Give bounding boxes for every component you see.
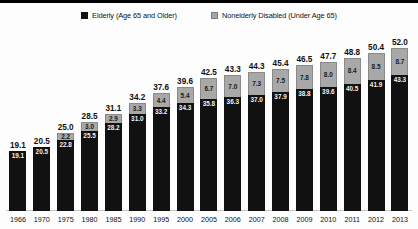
bar-segment-value: 3.3 [133, 106, 142, 112]
bar-segment-nonelderly-disabled[interactable]: 7.5 [272, 69, 289, 93]
bar-segment-nonelderly-disabled[interactable]: 2.9 [105, 114, 122, 123]
bar-segment-elderly[interactable]: 34.3 [177, 103, 194, 211]
bar-segment-nonelderly-disabled[interactable]: 3.3 [129, 103, 146, 113]
legend-item-elderly: Elderly (Age 65 and Older) [81, 11, 177, 20]
bar-segment-nonelderly-disabled[interactable]: 4.4 [153, 93, 170, 107]
bar-segment-value: 8.0 [324, 72, 333, 78]
bar-segment-elderly[interactable]: 36.3 [224, 97, 241, 211]
x-tick-label: 2005 [197, 213, 221, 224]
bar-segment-value: 7.0 [228, 84, 237, 90]
bar-stack[interactable]: 2.222.8 [57, 133, 74, 211]
bar-stack[interactable]: 7.036.3 [224, 75, 241, 211]
x-tick-label: 2010 [316, 213, 340, 224]
bar-segment-nonelderly-disabled[interactable]: 7.3 [248, 72, 265, 95]
bar-stack[interactable]: 8.039.6 [320, 62, 337, 211]
bar-stack[interactable]: 7.838.8 [296, 65, 313, 211]
bar-segment-elderly[interactable]: 37.9 [272, 92, 289, 211]
bar-segment-nonelderly-disabled[interactable]: 7.8 [296, 65, 313, 89]
bar-segment-value: 37.9 [274, 94, 286, 100]
bar-segment-value: 31.0 [131, 116, 143, 122]
bar-segment-value: 4.4 [157, 98, 166, 104]
bar-total-label: 19.1 [10, 141, 26, 150]
bar-group: 25.02.222.8 [54, 24, 78, 211]
bar-segment-elderly[interactable]: 20.5 [33, 147, 50, 211]
bar-segment-elderly[interactable]: 35.8 [200, 99, 217, 211]
bar-segment-value: 36.3 [227, 99, 239, 105]
bar-stack[interactable]: 19.1 [9, 151, 26, 211]
bar-segment-value: 7.3 [252, 81, 261, 87]
x-tick-label: 1995 [149, 213, 173, 224]
bar-group: 19.119.1 [6, 24, 30, 211]
plot-area: 19.119.120.520.525.02.222.828.53.025.531… [6, 24, 412, 229]
bar-segment-nonelderly-disabled[interactable]: 5.4 [177, 87, 194, 104]
bar-segment-value: 8.4 [348, 68, 357, 74]
legend-item-nonelderly-disabled: Nonelderly Disabled (Under Age 65) [211, 11, 337, 20]
x-tick-label: 2006 [221, 213, 245, 224]
bar-segment-nonelderly-disabled[interactable]: 8.5 [368, 53, 385, 80]
bar-total-label: 44.3 [249, 62, 265, 71]
bar-segment-elderly[interactable]: 41.9 [368, 80, 385, 211]
bar-group: 37.64.433.2 [149, 24, 173, 211]
bar-segment-value: 2.9 [109, 116, 118, 122]
bar-segment-value: 5.4 [181, 93, 190, 99]
bar-segment-elderly[interactable]: 37.0 [248, 95, 265, 211]
bar-stack[interactable]: 8.743.3 [391, 48, 408, 211]
bar-segment-value: 28.2 [107, 125, 119, 131]
bar-segment-value: 40.5 [346, 86, 358, 92]
x-tick-label: 1980 [78, 213, 102, 224]
bar-stack[interactable]: 4.433.2 [153, 93, 170, 211]
bar-segment-elderly[interactable]: 43.3 [391, 75, 408, 211]
bar-stack[interactable]: 7.537.9 [272, 69, 289, 211]
bar-group: 28.53.025.5 [78, 24, 102, 211]
bar-total-label: 50.4 [368, 43, 384, 52]
bar-segment-elderly[interactable]: 25.5 [81, 131, 98, 211]
bar-segment-nonelderly-disabled[interactable]: 2.2 [57, 133, 74, 140]
bar-segment-value: 8.7 [395, 59, 404, 65]
bar-segment-nonelderly-disabled[interactable]: 8.7 [391, 48, 408, 75]
bar-segment-elderly[interactable]: 31.0 [129, 114, 146, 211]
x-tick-label: 2009 [293, 213, 317, 224]
bar-segment-elderly[interactable]: 28.2 [105, 123, 122, 211]
bar-group: 39.65.434.3 [173, 24, 197, 211]
bar-total-label: 47.7 [320, 52, 336, 61]
x-tick-label: 1966 [6, 213, 30, 224]
bar-total-label: 39.6 [177, 77, 193, 86]
bar-segment-nonelderly-disabled[interactable]: 6.7 [200, 78, 217, 99]
bar-stack[interactable]: 3.025.5 [81, 122, 98, 211]
bar-group: 34.23.331.0 [125, 24, 149, 211]
bar-segment-nonelderly-disabled[interactable]: 8.0 [320, 62, 337, 87]
bar-segment-elderly[interactable]: 38.8 [296, 89, 313, 211]
bar-group: 42.56.735.8 [197, 24, 221, 211]
bar-group: 47.78.039.6 [316, 24, 340, 211]
bar-stack[interactable]: 3.331.0 [129, 103, 146, 211]
bar-segment-elderly[interactable]: 39.6 [320, 87, 337, 211]
bar-stack[interactable]: 2.928.2 [105, 114, 122, 211]
bar-segment-value: 22.8 [59, 142, 71, 148]
bar-segment-nonelderly-disabled[interactable]: 7.0 [224, 75, 241, 97]
legend-label: Elderly (Age 65 and Older) [92, 11, 177, 20]
x-tick-label: 2012 [364, 213, 388, 224]
bar-segment-nonelderly-disabled[interactable]: 3.0 [81, 122, 98, 131]
bar-group: 48.88.440.5 [340, 24, 364, 211]
bar-segment-elderly[interactable]: 19.1 [9, 151, 26, 211]
bar-stack[interactable]: 20.5 [33, 147, 50, 211]
bar-segment-elderly[interactable]: 22.8 [57, 140, 74, 211]
bar-segment-value: 39.6 [322, 89, 334, 95]
x-tick-label: 2000 [173, 213, 197, 224]
bar-stack[interactable]: 8.440.5 [344, 58, 361, 211]
bar-stack[interactable]: 5.434.3 [177, 87, 194, 211]
bar-segment-elderly[interactable]: 33.2 [153, 107, 170, 211]
bar-group: 31.12.928.2 [102, 24, 126, 211]
bar-stack[interactable]: 7.337.0 [248, 72, 265, 211]
bar-segment-value: 7.5 [276, 78, 285, 84]
chart-legend: Elderly (Age 65 and Older) Nonelderly Di… [0, 3, 418, 24]
bar-stack[interactable]: 6.735.8 [200, 78, 217, 211]
bar-segment-value: 19.1 [12, 153, 24, 159]
bar-segment-value: 25.5 [83, 133, 95, 139]
bar-segment-nonelderly-disabled[interactable]: 8.4 [344, 58, 361, 84]
bar-segment-elderly[interactable]: 40.5 [344, 84, 361, 211]
bar-stack[interactable]: 8.541.9 [368, 53, 385, 211]
x-tick-label: 1975 [54, 213, 78, 224]
bar-total-label: 20.5 [34, 137, 50, 146]
legend-swatch-icon [211, 12, 218, 19]
